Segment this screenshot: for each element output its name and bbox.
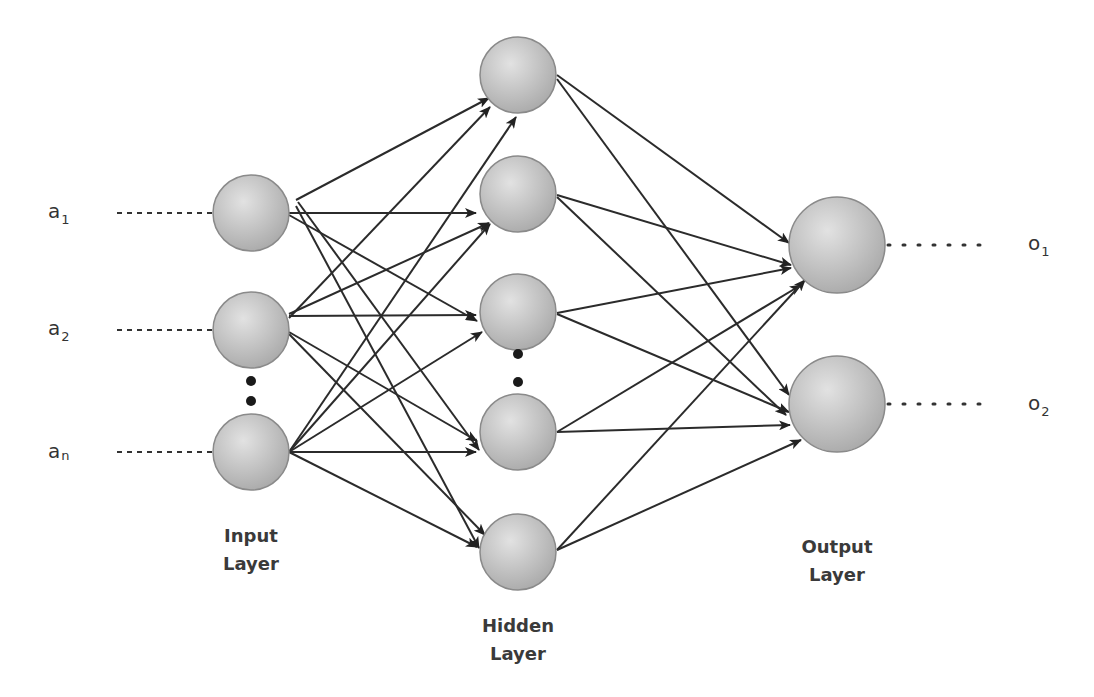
hidden-node-1 (480, 37, 556, 113)
output-layer (789, 197, 885, 452)
ellipsis-dot-icon (246, 376, 256, 386)
edge-h4-o1 (557, 285, 801, 432)
hidden-layer (480, 37, 556, 590)
edge-a1-h3 (289, 215, 477, 321)
ellipsis-dot-icon (246, 396, 256, 406)
input-node-a1 (213, 175, 289, 251)
label-an: an (48, 439, 70, 463)
edge-an-h2 (289, 224, 490, 452)
edge-an-h1 (289, 117, 516, 452)
hidden-layer-label-line2: Layer (490, 643, 546, 664)
edge-a2-h4 (289, 332, 477, 441)
label-o1: o1 (1028, 231, 1050, 259)
edge-a1-h5 (296, 206, 479, 548)
edge-h4-o2 (557, 425, 790, 432)
edge-h1-o1 (557, 75, 789, 243)
edge-a1-h1 (296, 98, 489, 200)
input-connectors (117, 213, 213, 452)
output-layer-label-line1: Output (801, 536, 872, 557)
label-a1: a1 (48, 199, 70, 227)
edge-an-h5 (289, 452, 477, 547)
hidden-node-3 (480, 274, 556, 350)
output-layer-label-line2: Layer (809, 564, 865, 585)
hidden-node-2 (480, 156, 556, 232)
hidden-layer-label-line1: Hidden (482, 615, 554, 636)
label-a2: a2 (48, 316, 70, 344)
output-connectors (888, 245, 985, 404)
edge-h5-o1 (557, 280, 805, 550)
output-node-o1 (789, 197, 885, 293)
edge-h3-o1 (557, 268, 791, 313)
input-layer-label-line1: Input (224, 525, 278, 546)
hidden-node-5 (480, 514, 556, 590)
edge-h1-o2 (557, 79, 789, 395)
edges-hidden-to-output (557, 75, 805, 550)
label-o2: o2 (1028, 391, 1050, 419)
output-node-o2 (789, 356, 885, 452)
input-node-an (213, 414, 289, 490)
neural-network-diagram: a1 a2 an o1 o2 Input Layer Hidden Layer … (0, 0, 1094, 697)
edge-a2-h2 (289, 223, 489, 314)
input-node-a2 (213, 292, 289, 368)
input-layer-label-line2: Layer (223, 553, 279, 574)
input-layer (213, 175, 289, 490)
ellipsis-dot-icon (513, 377, 523, 387)
hidden-node-4 (480, 394, 556, 470)
edge-h5-o2 (557, 440, 801, 550)
ellipsis-dot-icon (513, 349, 523, 359)
